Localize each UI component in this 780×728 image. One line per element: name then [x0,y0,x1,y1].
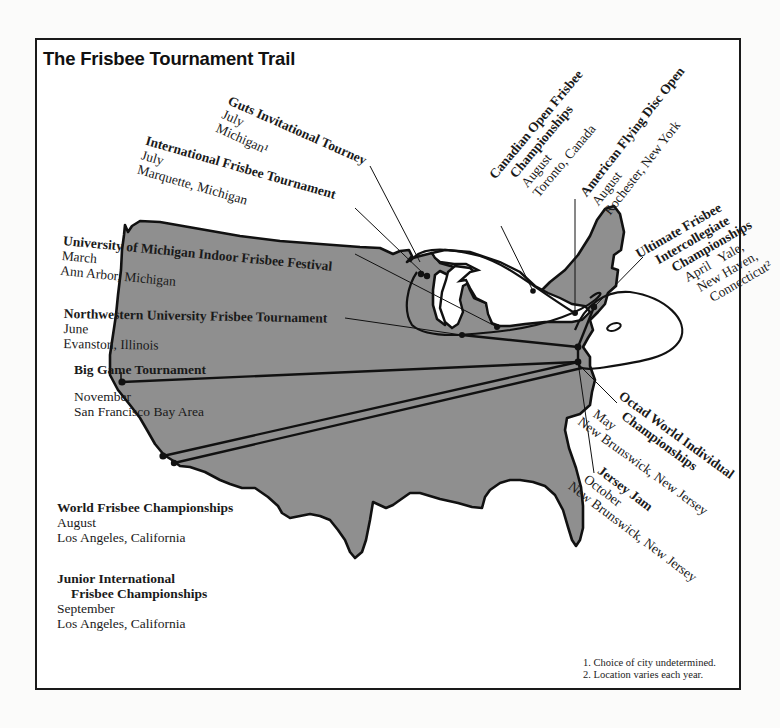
tournament-name-line2: Frisbee Championships [57,586,207,601]
marker-marquette [418,271,424,277]
tournament-location: Los Angeles, California [57,616,207,631]
long-island [606,322,621,333]
marker-new-brunswick-1 [575,344,582,351]
label-junior-international: Junior International Frisbee Championshi… [57,571,207,631]
marker-los-angeles-1 [159,452,166,459]
footnotes: 1. Choice of city undetermined. 2. Locat… [583,657,716,681]
tournament-name: World Frisbee Championships [57,500,233,515]
label-northwestern-university: Northwestern University Frisbee Tourname… [63,306,327,356]
footnote-1: 1. Choice of city undetermined. [583,657,716,669]
marker-los-angeles-2 [171,460,177,466]
marker-michigan [424,273,430,279]
label-big-game: Big Game Tournament November San Francis… [74,362,206,419]
tournament-name: Big Game Tournament [74,362,206,377]
marker-evanston [459,332,465,338]
tournament-location: San Francisco Bay Area [74,404,206,419]
marker-new-brunswick-2 [575,359,582,366]
footnote-2: 2. Location varies each year. [583,669,716,681]
marker-rochester [572,310,578,316]
label-world-frisbee: World Frisbee Championships August Los A… [57,500,233,545]
tournament-month: September [57,601,207,616]
tournament-location: Los Angeles, California [57,530,233,545]
marker-ann-arbor [494,324,500,330]
marker-new-haven [591,304,597,310]
tournament-month: November [74,389,206,404]
tournament-month: August [57,515,233,530]
marker-toronto [530,288,536,294]
tournament-name-line1: Junior International [57,571,207,586]
